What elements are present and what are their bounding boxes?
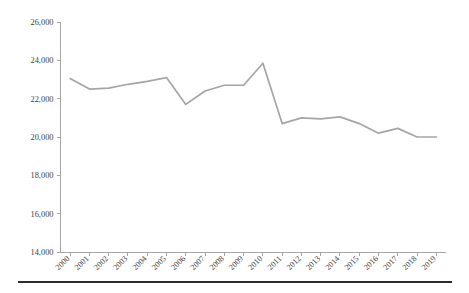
bottom-divider-rule (18, 281, 452, 283)
x-axis-tick-label: 2007 (189, 254, 207, 272)
x-axis-tick-label: 2017 (381, 254, 399, 272)
x-axis-tick-label: 2001 (73, 254, 91, 272)
x-axis-tick-label: 2015 (343, 254, 361, 272)
y-axis-tick-label: 16,000 (30, 210, 53, 219)
x-axis-tick-label: 2016 (362, 254, 380, 272)
y-axis-tick-marks (57, 22, 61, 252)
x-axis-tick-label: 2003 (111, 254, 129, 272)
x-axis-tick-label: 2008 (208, 254, 226, 272)
chart-canvas: 14,00016,00018,00020,00022,00024,00026,0… (0, 0, 469, 293)
x-axis-tick-label: 2018 (401, 254, 419, 272)
x-axis-tick-label: 2004 (131, 254, 149, 272)
line-chart: 14,00016,00018,00020,00022,00024,00026,0… (0, 0, 469, 293)
x-axis-tick-label: 2012 (285, 254, 303, 272)
x-axis-tick-marks (70, 252, 436, 256)
y-axis-tick-label: 18,000 (30, 171, 53, 180)
y-axis-tick-label: 26,000 (30, 18, 53, 27)
y-axis-tick-labels: 14,00016,00018,00020,00022,00024,00026,0… (30, 18, 53, 257)
x-axis-tick-label: 2006 (169, 254, 187, 272)
data-series-line (70, 63, 436, 137)
x-axis-tick-label: 2005 (150, 254, 168, 272)
x-axis-tick-label: 2013 (304, 254, 322, 272)
x-axis-tick-label: 2000 (54, 254, 72, 272)
x-axis-tick-label: 2019 (420, 254, 438, 272)
x-axis-tick-label: 2009 (227, 254, 245, 272)
x-axis-tick-label: 2002 (92, 254, 110, 272)
x-axis-tick-label: 2011 (266, 254, 284, 272)
y-axis-tick-label: 24,000 (30, 56, 53, 65)
x-axis-tick-label: 2014 (323, 254, 341, 272)
x-axis-tick-labels: 2000200120022003200420052006200720082009… (54, 254, 438, 272)
y-axis-tick-label: 22,000 (30, 95, 53, 104)
y-axis-tick-label: 20,000 (30, 133, 53, 142)
y-axis-tick-label: 14,000 (30, 248, 53, 257)
x-axis-tick-label: 2010 (246, 254, 264, 272)
